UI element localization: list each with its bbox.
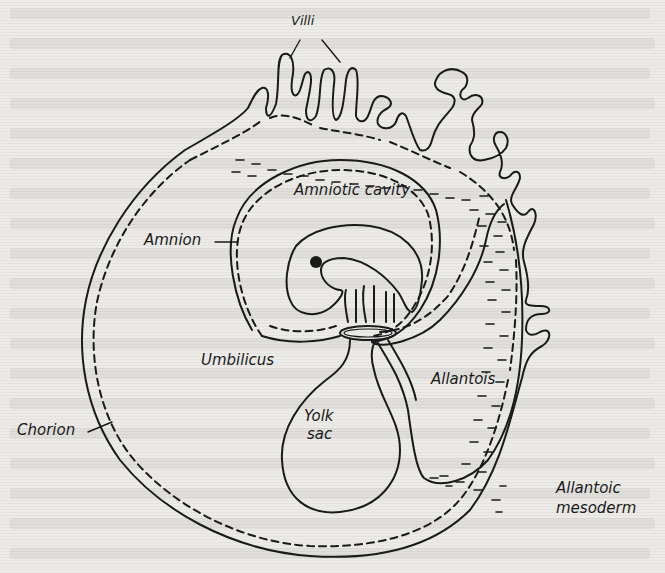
umbilical-stalk-tube-right [386, 292, 394, 322]
label-allantois: Allantois [431, 371, 495, 388]
label-amnion: Amnion [144, 232, 201, 249]
label-yolk-sac-line2: sac [307, 426, 332, 443]
allantoic-mesoderm-hatching [232, 160, 510, 512]
umbilical-stalk-tube-left [345, 290, 356, 322]
villi-pointer-line-2 [322, 40, 340, 62]
label-allantoic-mesoderm-line2: mesoderm [556, 500, 636, 517]
umbilical-stalk-tube-mid [363, 286, 374, 322]
label-yolk-sac-line1: Yolk [304, 408, 334, 425]
umbilical-ring [340, 326, 396, 340]
embryo-eye-spot [310, 256, 322, 268]
chorion-outer-boundary [82, 54, 549, 557]
amnion-lower-fold [262, 204, 504, 345]
label-umbilicus: Umbilicus [201, 352, 274, 369]
label-allantoic-mesoderm-line1: Allantoic [556, 480, 621, 497]
embryo-body [287, 225, 422, 314]
label-villi: Villi [291, 12, 314, 29]
yolk-sac [282, 340, 400, 512]
umbilical-ring-inner [344, 329, 392, 337]
label-chorion: Chorion [17, 422, 75, 439]
villi-pointer-line-1 [290, 40, 300, 58]
label-amniotic-cavity: Amniotic cavity [294, 182, 410, 199]
